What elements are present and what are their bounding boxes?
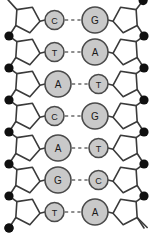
- nucleobase-t-left: [45, 43, 64, 62]
- phosphate-group: [139, 127, 148, 136]
- phosphate-group: [4, 63, 13, 72]
- nucleobase-c-left: [45, 11, 64, 30]
- nucleobase-c-right: [89, 171, 108, 190]
- nucleobase-t-left: [45, 203, 64, 222]
- nucleobase-a-right: [82, 39, 108, 65]
- nucleobase-c-left: [45, 107, 64, 126]
- nucleobase-a-left: [45, 71, 71, 97]
- phosphate-group: [4, 31, 13, 40]
- nucleobase-t-right: [89, 139, 108, 158]
- nucleobase-t-right: [89, 75, 108, 94]
- phosphate-group: [139, 191, 148, 200]
- nucleobase-g-left: [45, 167, 71, 193]
- phosphate-group: [139, 95, 148, 104]
- dna-diagram-canvas: CGTAATCGATGCTA: [0, 0, 153, 240]
- nucleobase-g-right: [82, 103, 108, 129]
- phosphate-group: [4, 95, 13, 104]
- nucleobase-g-right: [82, 7, 108, 33]
- phosphate-group: [139, 31, 148, 40]
- phosphate-group: [139, 63, 148, 72]
- nucleobase-a-left: [45, 135, 71, 161]
- phosphate-group: [4, 223, 13, 232]
- phosphate-group: [139, 159, 148, 168]
- phosphate-group: [4, 127, 13, 136]
- nucleobase-a-right: [82, 199, 108, 225]
- phosphate-group: [4, 159, 13, 168]
- phosphate-group: [4, 191, 13, 200]
- dna-double-helix-figure: CGTAATCGATGCTA: [0, 0, 153, 240]
